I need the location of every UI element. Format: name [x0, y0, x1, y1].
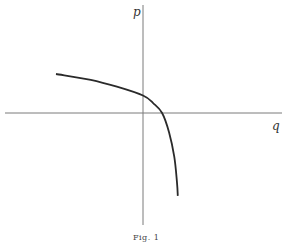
figure-canvas: p q Fig. 1 [0, 0, 285, 242]
curve-line [56, 74, 178, 196]
x-axis-label: q [272, 119, 280, 133]
figure-caption: Fig. 1 [133, 233, 159, 242]
y-axis-label: p [133, 5, 141, 19]
